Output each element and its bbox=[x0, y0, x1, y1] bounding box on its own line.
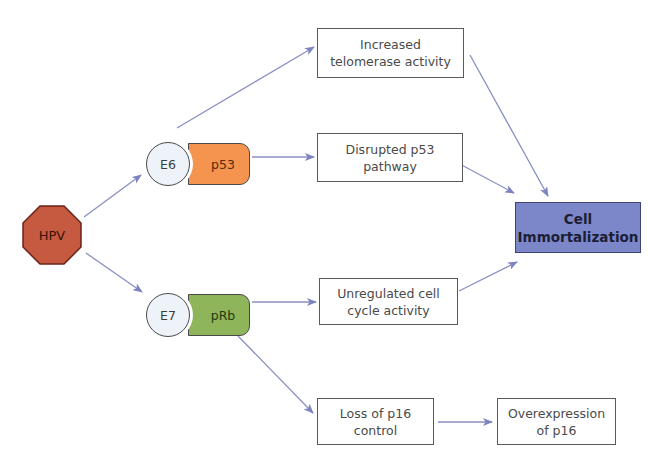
e6-node: E6 bbox=[146, 142, 190, 186]
arrow-e6-telomerase bbox=[177, 47, 314, 128]
e7-label: E7 bbox=[160, 308, 176, 323]
p16-loss-line1: Loss of p16 bbox=[340, 405, 411, 422]
telomerase-line2: telomerase activity bbox=[330, 53, 451, 70]
p53-pathway-box: Disrupted p53 pathway bbox=[317, 133, 463, 182]
e6-label: E6 bbox=[160, 157, 176, 172]
cell-immortalization-box: Cell Immortalization bbox=[515, 202, 641, 253]
cell-cycle-line2: cycle activity bbox=[337, 302, 440, 319]
immortalization-line2: Immortalization bbox=[518, 228, 639, 246]
e7-node: E7 bbox=[146, 293, 190, 337]
telomerase-line1: Increased bbox=[330, 36, 451, 53]
prb-label: pRb bbox=[211, 308, 236, 323]
arrow-hpv-e7 bbox=[86, 253, 142, 292]
p16-over-line1: Overexpression bbox=[508, 405, 605, 422]
p16-overexpression-box: Overexpression of p16 bbox=[497, 398, 616, 445]
p16-over-line2: of p16 bbox=[508, 422, 605, 439]
p16-loss-box: Loss of p16 control bbox=[317, 398, 434, 445]
arrow-hpv-e6 bbox=[84, 175, 141, 217]
arrow-prb-p16loss bbox=[238, 336, 313, 413]
hpv-label: HPV bbox=[22, 205, 82, 265]
cell-cycle-line1: Unregulated cell bbox=[337, 285, 440, 302]
p16-loss-line2: control bbox=[340, 422, 411, 439]
immortalization-line1: Cell bbox=[518, 210, 639, 228]
telomerase-box: Increased telomerase activity bbox=[317, 28, 464, 78]
p53-label: p53 bbox=[211, 157, 235, 172]
p53-node: p53 bbox=[188, 143, 250, 185]
prb-node: pRb bbox=[188, 294, 250, 336]
p53-pathway-line2: pathway bbox=[346, 158, 435, 175]
arrow-cellcycle-immortal bbox=[459, 262, 517, 291]
p53-pathway-line1: Disrupted p53 bbox=[346, 141, 435, 158]
arrow-telomerase-immortal bbox=[470, 55, 548, 196]
cell-cycle-box: Unregulated cell cycle activity bbox=[319, 278, 458, 325]
